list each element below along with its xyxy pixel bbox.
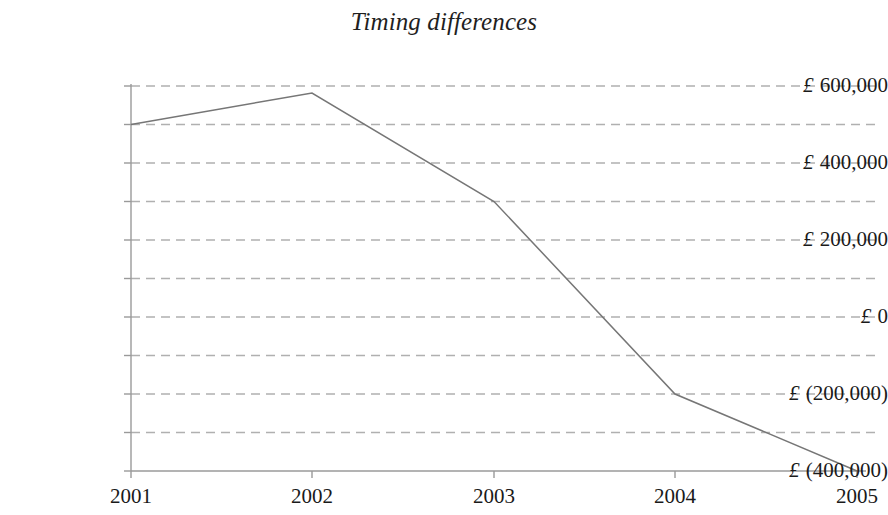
x-tick-label-2005: 2005 [797, 486, 888, 507]
x-tick-label-2003: 2003 [434, 486, 554, 507]
chart-figure: Timing differences [0, 0, 888, 515]
x-tick-label-2001: 2001 [71, 486, 191, 507]
x-tick-label-2002: 2002 [252, 486, 372, 507]
x-tick-label-2004: 2004 [615, 486, 735, 507]
x-axis-label-group: 2001 2002 2003 2004 2005 [0, 0, 888, 515]
